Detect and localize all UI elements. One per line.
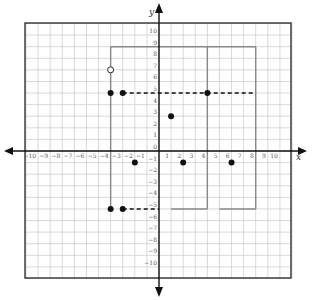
filled-point xyxy=(120,206,126,212)
filled-point xyxy=(132,160,138,166)
y-tick-label: −5 xyxy=(148,201,157,208)
filled-point xyxy=(229,160,235,166)
y-axis-up-arrow-icon xyxy=(155,3,163,13)
x-tick-label: 10 xyxy=(270,152,278,159)
filled-point xyxy=(120,90,126,96)
y-tick-label: 0 xyxy=(153,143,157,150)
x-tick-label: −3 xyxy=(112,152,121,159)
y-tick-label: −9 xyxy=(148,247,157,254)
filled-point xyxy=(108,206,114,212)
x-axis-left-arrow-icon xyxy=(4,147,13,155)
x-tick-label: −1 xyxy=(136,152,145,159)
x-tick-label: −10 xyxy=(23,152,36,159)
x-tick-label: 4 xyxy=(202,152,206,159)
x-axis-label: x xyxy=(296,152,301,162)
y-tick-label: 1 xyxy=(153,131,157,138)
filled-point xyxy=(204,90,210,96)
open-point xyxy=(108,67,114,73)
y-tick-label: 4 xyxy=(153,97,157,104)
y-tick-label: 5 xyxy=(153,85,157,92)
coordinate-plane: −10−9−8−7−6−5−4−3−2−11234567891010987654… xyxy=(0,0,312,300)
x-tick-label: 6 xyxy=(226,152,230,159)
y-tick-label: 2 xyxy=(153,120,157,127)
y-axis-down-arrow-icon xyxy=(155,287,163,297)
filled-point xyxy=(180,160,186,166)
x-tick-label: −2 xyxy=(124,152,133,159)
x-tick-label: 9 xyxy=(262,152,266,159)
x-tick-label: 8 xyxy=(250,152,254,159)
x-tick-label: 5 xyxy=(214,152,218,159)
y-tick-label: −6 xyxy=(148,213,157,220)
y-axis-label: y xyxy=(148,7,155,17)
filled-point xyxy=(168,113,174,119)
x-tick-label: 7 xyxy=(238,152,242,159)
y-tick-label: −1 xyxy=(148,155,157,162)
tick-labels: −10−9−8−7−6−5−4−3−2−11234567891010987654… xyxy=(23,27,278,266)
y-tick-label: −8 xyxy=(148,236,157,243)
y-tick-label: −7 xyxy=(148,224,157,231)
y-tick-label: −2 xyxy=(148,166,157,173)
y-tick-label: −3 xyxy=(148,178,157,185)
x-tick-label: 3 xyxy=(189,152,193,159)
x-tick-label: 1 xyxy=(165,152,169,159)
y-tick-label: −10 xyxy=(144,259,157,266)
y-tick-label: −4 xyxy=(148,189,157,196)
y-tick-label: 9 xyxy=(153,39,157,46)
x-tick-label: −6 xyxy=(76,152,85,159)
y-tick-label: 3 xyxy=(153,108,157,115)
x-tick-label: −9 xyxy=(39,152,48,159)
x-tick-label: −7 xyxy=(64,152,73,159)
y-tick-label: 6 xyxy=(153,73,157,80)
filled-point xyxy=(108,90,114,96)
x-tick-label: 2 xyxy=(177,152,181,159)
x-tick-label: −8 xyxy=(51,152,60,159)
y-tick-label: 10 xyxy=(149,27,157,34)
x-tick-label: −4 xyxy=(100,152,109,159)
y-tick-label: 7 xyxy=(153,62,157,69)
x-tick-label: −5 xyxy=(88,152,97,159)
y-tick-label: 8 xyxy=(153,50,157,57)
